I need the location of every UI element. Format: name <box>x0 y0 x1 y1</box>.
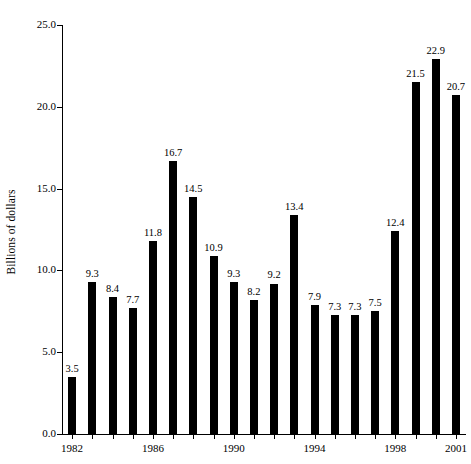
bar <box>230 282 238 434</box>
x-axis-tick <box>153 435 154 439</box>
x-axis-tick <box>335 435 336 439</box>
y-axis-tick <box>57 270 63 271</box>
x-axis-tick <box>193 435 194 439</box>
x-axis-tick <box>416 435 417 439</box>
x-axis-tick-label: 1994 <box>304 442 326 454</box>
y-axis-line <box>62 25 63 434</box>
y-axis-tick <box>57 107 63 108</box>
x-axis-tick <box>456 435 457 439</box>
bar-value-label: 7.3 <box>328 301 341 312</box>
bar-value-label: 10.9 <box>204 242 222 253</box>
x-axis-tick <box>294 435 295 439</box>
bar <box>412 82 420 434</box>
x-axis-tick <box>133 435 134 439</box>
y-axis-tick <box>57 25 63 26</box>
bar-value-label: 20.7 <box>447 81 465 92</box>
y-axis-tick-label: 10.0 <box>22 264 56 275</box>
x-axis-tick-label: 1982 <box>61 442 83 454</box>
bar-value-label: 7.5 <box>369 297 382 308</box>
y-axis-tick-label: 25.0 <box>22 19 56 30</box>
y-axis-tick-labels: 0.05.010.015.020.025.0 <box>18 25 56 434</box>
x-axis-tick <box>436 435 437 439</box>
bar-value-label: 13.4 <box>285 201 303 212</box>
y-axis-tick-label: 15.0 <box>22 183 56 194</box>
bar <box>88 282 96 434</box>
bar <box>189 197 197 434</box>
bar <box>452 95 460 434</box>
y-axis-tick-label: 0.0 <box>22 428 56 439</box>
x-axis-tick <box>355 435 356 439</box>
x-axis-tick <box>113 435 114 439</box>
x-axis-tick-label: 1990 <box>223 442 245 454</box>
bar <box>351 315 359 434</box>
bar <box>210 256 218 434</box>
bar <box>129 308 137 434</box>
bar-value-label: 9.2 <box>268 269 281 280</box>
bar-value-label: 7.7 <box>126 294 139 305</box>
bar <box>331 315 339 434</box>
x-axis-tick <box>375 435 376 439</box>
y-axis-tick-label: 5.0 <box>22 346 56 357</box>
bar-value-label: 11.8 <box>144 227 162 238</box>
x-axis-tick <box>72 435 73 439</box>
bar <box>371 311 379 434</box>
x-axis-tick <box>92 435 93 439</box>
bar-value-label: 16.7 <box>164 147 182 158</box>
x-axis-tick <box>214 435 215 439</box>
bar-chart: Billions of dollars 0.05.010.015.020.025… <box>0 0 471 464</box>
x-axis-tick <box>234 435 235 439</box>
plot-area: 0.05.010.015.020.025.0 19821986199019941… <box>62 25 466 434</box>
bar-value-label: 9.3 <box>86 268 99 279</box>
x-axis-tick <box>395 435 396 439</box>
bar-value-label: 12.4 <box>386 217 404 228</box>
bar-value-label: 8.4 <box>106 283 119 294</box>
x-axis-line <box>62 434 466 435</box>
bar-value-label: 3.5 <box>66 363 79 374</box>
bar-value-label: 7.9 <box>308 291 321 302</box>
x-axis-tick-label: 1986 <box>142 442 164 454</box>
bar <box>290 215 298 434</box>
bar <box>270 284 278 435</box>
x-axis-tick <box>254 435 255 439</box>
x-axis-tick <box>173 435 174 439</box>
x-axis-tick-label: 2001 <box>445 442 467 454</box>
bar <box>109 297 117 434</box>
x-axis-tick <box>274 435 275 439</box>
bar <box>432 59 440 434</box>
bar-value-label: 8.2 <box>247 286 260 297</box>
bar-value-label: 22.9 <box>427 45 445 56</box>
bar <box>311 305 319 434</box>
y-axis-tick <box>57 352 63 353</box>
bar-value-label: 7.3 <box>348 301 361 312</box>
y-axis-tick <box>57 189 63 190</box>
bar <box>149 241 157 434</box>
bar-value-label: 9.3 <box>227 268 240 279</box>
bar-value-label: 21.5 <box>406 68 424 79</box>
bar <box>169 161 177 434</box>
y-axis-tick <box>57 434 63 435</box>
x-axis-tick <box>315 435 316 439</box>
bar <box>68 377 76 434</box>
bar-value-label: 14.5 <box>184 183 202 194</box>
bar <box>250 300 258 434</box>
bar <box>391 231 399 434</box>
x-axis-tick-label: 1998 <box>384 442 406 454</box>
y-axis-tick-label: 20.0 <box>22 101 56 112</box>
